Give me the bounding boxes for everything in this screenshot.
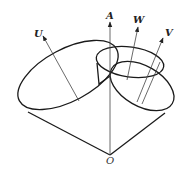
label-u: U (34, 28, 44, 39)
cone-w-edge (97, 63, 110, 84)
cone-v-rim (102, 51, 183, 121)
axis-v-arrow (137, 38, 163, 102)
cone-diagram: A W V U O (0, 0, 186, 174)
cone-u (7, 26, 129, 155)
label-w: W (133, 14, 146, 25)
label-o: O (106, 155, 114, 166)
axis-w-arrow (127, 27, 138, 80)
label-a: A (105, 10, 114, 21)
label-v: V (165, 27, 174, 38)
axis-u-arrow (43, 36, 79, 101)
cone-v-right-edge (110, 113, 165, 155)
cone-w (94, 42, 166, 84)
cone-u-left-edge (28, 112, 110, 155)
